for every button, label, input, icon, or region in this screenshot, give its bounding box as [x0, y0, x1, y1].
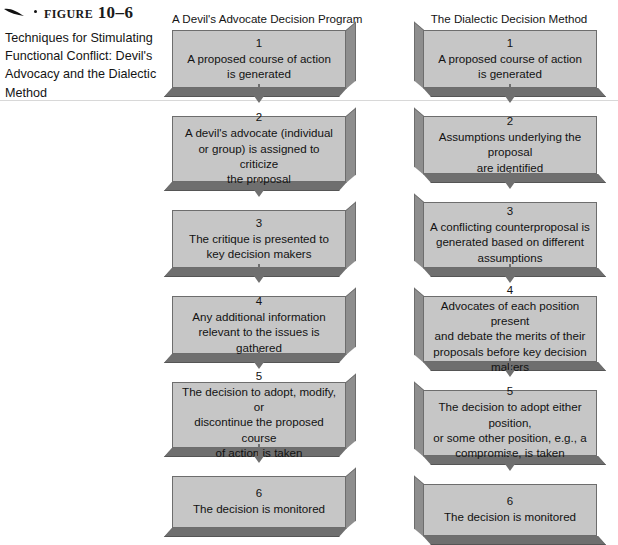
flow-step-box: 4Advocates of each position present and … — [423, 296, 597, 362]
flow-step-box: 1A proposed course of action is generate… — [423, 30, 597, 88]
flow-step-dialectic-method-6: 6The decision is monitored — [414, 484, 604, 536]
flow-connector-arrow — [414, 174, 604, 188]
flow-connector-arrow — [414, 88, 604, 102]
arrow-stem — [509, 358, 511, 370]
flow-step-dialectic-method-3: 3A conflicting counterproposal is genera… — [414, 202, 604, 268]
flow-step-box: 3The critique is presented to key decisi… — [172, 210, 346, 268]
step-number: 5 — [256, 369, 262, 384]
step-number: 4 — [256, 294, 262, 309]
column-title-dialectic-method: The Dialectic Decision Method — [414, 8, 604, 30]
arrow-head — [505, 370, 515, 377]
box-side-face — [346, 202, 356, 269]
step-list-devils-advocate: 1A proposed course of action is generate… — [172, 30, 362, 528]
step-number: 1 — [256, 36, 262, 51]
flow-connector-arrow — [172, 448, 362, 462]
flow-connector-arrow — [414, 362, 604, 376]
flow-step-devils-advocate-3: 3The critique is presented to key decisi… — [172, 210, 362, 268]
arrow-stem — [509, 84, 511, 96]
flow-connector-arrow — [172, 268, 362, 282]
flow-connector-arrow — [172, 182, 362, 196]
arrow-stem — [509, 264, 511, 276]
flow-step-box: 6The decision is monitored — [172, 476, 346, 528]
figure-label-row: Figure 10–6 — [0, 0, 168, 26]
figure-caption-text: Techniques for Stimulating Functional Co… — [0, 29, 165, 102]
step-number: 3 — [507, 204, 513, 219]
flow-step-box: 4Any additional information relevant to … — [172, 296, 346, 354]
flow-connector-arrow — [172, 354, 362, 368]
arrow-stem — [258, 84, 260, 96]
flow-connector-arrow — [172, 88, 362, 102]
step-text: The critique is presented to key decisio… — [189, 231, 329, 262]
flow-connector-arrow — [414, 456, 604, 470]
flow-step-box: 2A devil's advocate (individual or group… — [172, 116, 346, 182]
arrow-head — [254, 456, 264, 463]
box-side-face — [346, 468, 356, 529]
box-bottom-face — [423, 536, 606, 545]
flow-step-dialectic-method-1: 1A proposed course of action is generate… — [414, 30, 604, 88]
step-text: The decision is monitored — [193, 501, 325, 516]
step-number: 4 — [507, 283, 513, 298]
flow-step-box: 5The decision to adopt, modify, or disco… — [172, 382, 346, 448]
arrow-stem — [258, 178, 260, 190]
flowchart-column-devils-advocate: A Devil's Advocate Decision Program 1A p… — [172, 8, 362, 528]
step-number: 2 — [507, 114, 513, 129]
arrow-stem — [509, 170, 511, 182]
flow-step-dialectic-method-5: 5The decision to adopt either position, … — [414, 390, 604, 456]
step-text: Any additional information relevant to t… — [179, 309, 339, 355]
box-bottom-face — [164, 528, 347, 537]
flow-step-devils-advocate-1: 1A proposed course of action is generate… — [172, 30, 362, 88]
arrow-head — [254, 190, 264, 197]
flowchart-column-dialectic-method: The Dialectic Decision Method 1A propose… — [414, 8, 604, 536]
step-text: The decision is monitored — [444, 509, 576, 524]
arrow-head — [254, 276, 264, 283]
step-number: 2 — [256, 110, 262, 125]
figure-number-label: Figure 10–6 — [44, 3, 133, 23]
arrow-stem — [509, 452, 511, 464]
step-number: 3 — [256, 216, 262, 231]
step-number: 5 — [507, 384, 513, 399]
flow-step-box: 3A conflicting counterproposal is genera… — [423, 202, 597, 268]
step-number: 1 — [507, 36, 513, 51]
step-text: Assumptions underlying the proposal are … — [430, 129, 590, 175]
flow-step-box: 5The decision to adopt either position, … — [423, 390, 597, 456]
flow-step-devils-advocate-6: 6The decision is monitored — [172, 476, 362, 528]
step-list-dialectic-method: 1A proposed course of action is generate… — [414, 30, 604, 536]
column-title-devils-advocate: A Devil's Advocate Decision Program — [172, 8, 362, 30]
box-side-face — [346, 108, 356, 183]
arrow-stem — [258, 444, 260, 456]
arrow-stem — [258, 350, 260, 362]
flow-step-devils-advocate-4: 4Any additional information relevant to … — [172, 296, 362, 354]
flow-step-box: 2Assumptions underlying the proposal are… — [423, 116, 597, 174]
step-text: A conflicting counterproposal is generat… — [430, 219, 590, 265]
box-side-face — [346, 22, 356, 89]
bullet-dot-icon — [34, 10, 37, 13]
step-text: A proposed course of action is generated — [438, 51, 582, 82]
flow-connector-arrow — [414, 268, 604, 282]
flow-step-box: 1A proposed course of action is generate… — [172, 30, 346, 88]
swoosh-icon — [4, 7, 30, 19]
step-text: A proposed course of action is generated — [187, 51, 331, 82]
arrow-head — [254, 96, 264, 103]
arrow-head — [505, 96, 515, 103]
figure-caption-block: Figure 10–6 Techniques for Stimulating F… — [0, 0, 168, 102]
flow-step-dialectic-method-4: 4Advocates of each position present and … — [414, 296, 604, 362]
arrow-head — [505, 464, 515, 471]
arrow-head — [505, 182, 515, 189]
box-side-face — [346, 288, 356, 355]
box-side-face — [346, 374, 356, 449]
step-number: 6 — [256, 486, 262, 501]
arrow-stem — [258, 264, 260, 276]
flow-step-devils-advocate-2: 2A devil's advocate (individual or group… — [172, 116, 362, 182]
step-number: 6 — [507, 494, 513, 509]
flow-step-dialectic-method-2: 2Assumptions underlying the proposal are… — [414, 116, 604, 174]
flow-step-box: 6The decision is monitored — [423, 484, 597, 536]
flow-step-devils-advocate-5: 5The decision to adopt, modify, or disco… — [172, 382, 362, 448]
